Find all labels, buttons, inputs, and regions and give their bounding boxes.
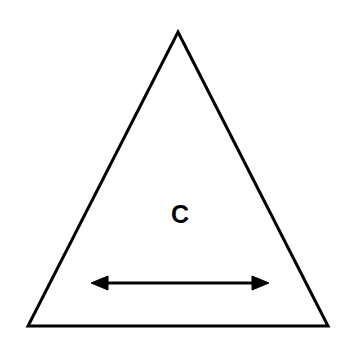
figure-canvas: C bbox=[0, 0, 348, 348]
triangle-diagram: C bbox=[0, 0, 348, 348]
triangle-label-c: C bbox=[171, 200, 189, 228]
